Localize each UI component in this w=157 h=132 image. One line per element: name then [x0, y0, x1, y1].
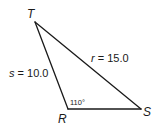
side-r-value: = 15.0	[95, 52, 129, 64]
vertex-label-r: R	[58, 112, 67, 126]
side-label-r: r = 15.0	[91, 52, 129, 64]
angle-label-r: 110°	[70, 98, 85, 107]
triangle	[35, 22, 141, 109]
vertex-label-t: T	[27, 7, 36, 21]
vertex-label-s: S	[143, 105, 151, 119]
side-label-s: s = 10.0	[9, 67, 48, 79]
side-s-value: = 10.0	[15, 67, 49, 79]
triangle-diagram: T R S s = 10.0 r = 15.0 110°	[0, 0, 157, 132]
